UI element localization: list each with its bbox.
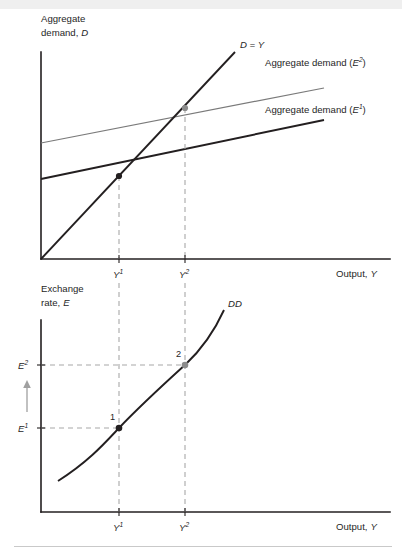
- d-equals-y-label: D = Y: [240, 39, 265, 50]
- lower-xtick-label-2: Y2: [179, 521, 189, 533]
- dd-curve-label: DD: [228, 298, 242, 309]
- aggregate-demand-e1-line: [41, 120, 324, 179]
- upper-y-axis-label-line2: demand,D: [41, 27, 88, 38]
- lower-ytick-label-e2: E2: [18, 359, 28, 371]
- page-bottom-rule: [14, 546, 392, 547]
- lower-point-1-number: 1: [110, 412, 115, 422]
- lower-equilibrium-point-1: [116, 425, 123, 432]
- lower-y-axis-label-line1: Exchange: [41, 283, 84, 294]
- upper-y-axis-label-line1: Aggregate: [41, 13, 85, 24]
- page-top-band: [0, 0, 402, 9]
- dd-curve: [58, 310, 224, 481]
- lower-point-2-number: 2: [176, 349, 181, 359]
- lower-y-axis-label-line2: rate,E: [41, 297, 70, 308]
- lower-xtick-label-1: Y1: [113, 521, 123, 533]
- aggregate-demand-e2-line: [41, 88, 324, 143]
- upper-equilibrium-point-1: [116, 173, 122, 179]
- upper-xtick-label-2: Y2: [179, 268, 189, 280]
- aggregate-demand-e2-label: Aggregate demand (E2): [265, 56, 366, 68]
- lower-x-axis-title: Output,Y: [336, 521, 377, 532]
- d-equals-y-line: [41, 52, 235, 259]
- figure-canvas: Aggregate demand,D Y1 Y2 Output,Y: [0, 0, 402, 559]
- upper-panel: Aggregate demand,D Y1 Y2 Output,Y: [41, 13, 390, 280]
- lower-equilibrium-point-2: [182, 362, 189, 369]
- economics-figure: Aggregate demand,D Y1 Y2 Output,Y: [0, 0, 402, 559]
- aggregate-demand-e1-label: Aggregate demand (E1): [265, 103, 366, 115]
- upper-x-axis-title: Output,Y: [336, 268, 377, 279]
- lower-panel: Exchange rate,E 1 2 E2 E1: [18, 283, 390, 533]
- lower-ytick-label-e1: E1: [18, 422, 28, 434]
- upper-xtick-label-1: Y1: [113, 268, 123, 280]
- upward-arrow-icon: [23, 380, 31, 412]
- upper-equilibrium-point-2: [182, 105, 188, 111]
